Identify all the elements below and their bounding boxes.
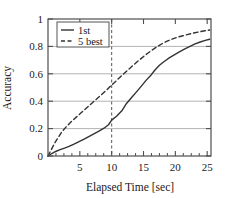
x-tick-label-3: 20 bbox=[170, 161, 182, 173]
y-axis-title: Accuracy bbox=[1, 66, 14, 110]
x-axis-title: Elapsed Time [sec] bbox=[86, 181, 174, 194]
y-tick-label-3: 0.6 bbox=[29, 68, 43, 80]
x-tick-label-0: 5 bbox=[77, 161, 83, 173]
x-tick-label-4: 25 bbox=[202, 161, 214, 173]
legend-label-0: 1st bbox=[78, 25, 90, 36]
chart-legend[interactable]: 1st5 best bbox=[57, 22, 109, 47]
y-tick-label-4: 0.8 bbox=[29, 40, 43, 52]
x-tick-label-1: 10 bbox=[106, 161, 118, 173]
y-tick-label-1: 0.2 bbox=[29, 122, 43, 134]
chart-figure: 51015202500.20.40.60.81 1st5 best Elapse… bbox=[0, 0, 230, 198]
y-tick-label-5: 1 bbox=[38, 13, 44, 25]
accuracy-vs-time-line-chart: 51015202500.20.40.60.81 1st5 best Elapse… bbox=[0, 0, 230, 198]
x-tick-label-2: 15 bbox=[138, 161, 150, 173]
y-tick-label-0: 0 bbox=[38, 150, 44, 162]
legend-label-1: 5 best bbox=[78, 36, 103, 47]
y-tick-label-2: 0.4 bbox=[29, 95, 43, 107]
